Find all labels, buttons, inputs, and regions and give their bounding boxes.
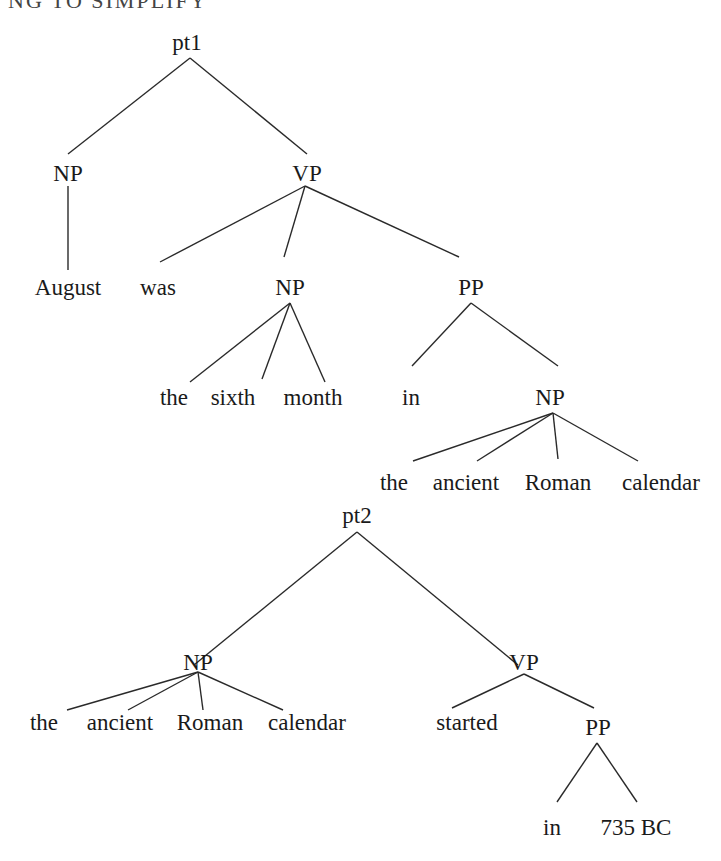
parse-tree-diagram: pt1NPVPAugustwasNPPPthesixthmonthinNPthe… (0, 0, 721, 861)
tree-edge (305, 186, 459, 257)
tree-edge (198, 672, 283, 710)
tree-node-t1-ancient: ancient (433, 470, 500, 495)
tree-edge (198, 672, 203, 710)
tree-edge (67, 672, 198, 710)
tree-edges (67, 58, 638, 802)
tree-node-t1-root: pt1 (172, 30, 201, 55)
tree-node-t1-np: NP (53, 161, 82, 186)
tree-edge (284, 186, 305, 257)
tree-node-t2-roman: Roman (177, 710, 244, 735)
tree-node-t2-in: in (543, 815, 561, 840)
tree-edge (471, 303, 558, 366)
tree-node-t1-pp: PP (458, 275, 484, 300)
tree-node-t2-ancient: ancient (87, 710, 154, 735)
tree-edge (190, 58, 307, 154)
tree-node-t1-month: month (284, 385, 343, 410)
tree-node-t2-started: started (436, 710, 498, 735)
tree-node-t2-vp: VP (509, 650, 538, 675)
tree-edge (128, 672, 198, 710)
tree-node-t2-pp: PP (585, 715, 611, 740)
tree-nodes: pt1NPVPAugustwasNPPPthesixthmonthinNPthe… (30, 30, 700, 840)
tree-edge (477, 413, 553, 461)
tree-edge (524, 674, 594, 708)
tree-node-t1-np2: NP (275, 275, 304, 300)
tree-edge (194, 532, 357, 665)
tree-node-t1-was: was (140, 275, 176, 300)
tree-node-t2-np: NP (183, 650, 212, 675)
tree-edge (290, 303, 325, 382)
tree-node-t1-calendar: calendar (622, 470, 700, 495)
tree-node-t1-np3: NP (535, 385, 564, 410)
tree-edge (553, 413, 638, 461)
tree-node-t1-august: August (35, 275, 102, 300)
tree-node-t2-the: the (30, 710, 58, 735)
tree-edge (553, 413, 558, 459)
tree-node-t1-sixth: sixth (211, 385, 256, 410)
parse-tree-pt1: pt1NPVPAugustwasNPPPthesixthmonthinNPthe… (35, 30, 701, 495)
tree-node-t1-roman: Roman (525, 470, 592, 495)
tree-edge (68, 58, 190, 154)
tree-node-t1-the2: the (380, 470, 408, 495)
tree-edge (357, 532, 518, 665)
parse-tree-pt2: pt2NPVPtheancientRomancalendarstartedPPi… (30, 503, 672, 840)
tree-node-t2-root: pt2 (342, 503, 371, 528)
tree-node-t1-vp: VP (292, 161, 321, 186)
tree-edge (597, 743, 637, 802)
tree-node-t1-in: in (402, 385, 420, 410)
tree-edge (557, 743, 597, 802)
tree-node-t2-calendar: calendar (268, 710, 346, 735)
tree-edge (412, 303, 471, 366)
tree-edge (452, 674, 524, 708)
tree-edge (413, 413, 553, 461)
tree-edge (160, 186, 305, 262)
tree-node-t1-the: the (160, 385, 188, 410)
tree-node-t2-735bc: 735 BC (601, 815, 672, 840)
